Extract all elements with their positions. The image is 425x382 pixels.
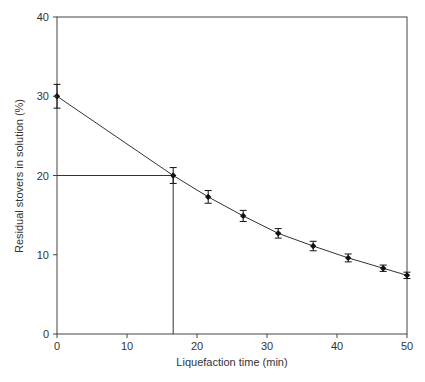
data-markers	[54, 93, 410, 279]
diamond-marker	[380, 265, 386, 271]
diamond-marker	[310, 243, 316, 249]
error-bars	[54, 84, 411, 278]
diamond-marker	[345, 255, 351, 261]
y-tick-label: 40	[37, 11, 49, 23]
x-tick-label: 50	[401, 340, 413, 352]
diamond-marker	[205, 194, 211, 200]
y-tick-label: 30	[37, 90, 49, 102]
data-line	[57, 96, 407, 275]
reference-guides	[57, 176, 173, 335]
diamond-marker	[170, 172, 176, 178]
x-tick-label: 20	[191, 340, 203, 352]
x-tick-label: 0	[54, 340, 60, 352]
y-axis-title: Residual stovers in solution (%)	[13, 99, 25, 253]
diamond-marker	[275, 230, 281, 236]
diamond-marker	[240, 213, 246, 219]
x-tick-label: 40	[331, 340, 343, 352]
x-axis-ticks: 01020304050	[54, 334, 413, 352]
x-tick-label: 30	[261, 340, 273, 352]
chart-canvas: 01020304050 010203040 Liquefaction time …	[0, 0, 425, 382]
y-tick-label: 20	[37, 170, 49, 182]
y-axis-ticks: 010203040	[37, 11, 57, 340]
diamond-marker	[404, 272, 410, 278]
y-tick-label: 10	[37, 249, 49, 261]
x-tick-label: 10	[121, 340, 133, 352]
series-path	[57, 96, 407, 275]
x-axis-title: Liquefaction time (min)	[176, 356, 287, 368]
y-tick-label: 0	[43, 328, 49, 340]
